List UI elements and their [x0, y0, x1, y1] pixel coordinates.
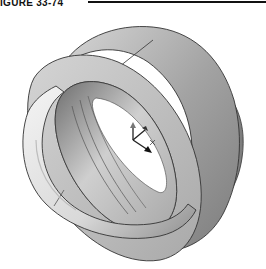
- ring-torus-model: [0, 0, 266, 269]
